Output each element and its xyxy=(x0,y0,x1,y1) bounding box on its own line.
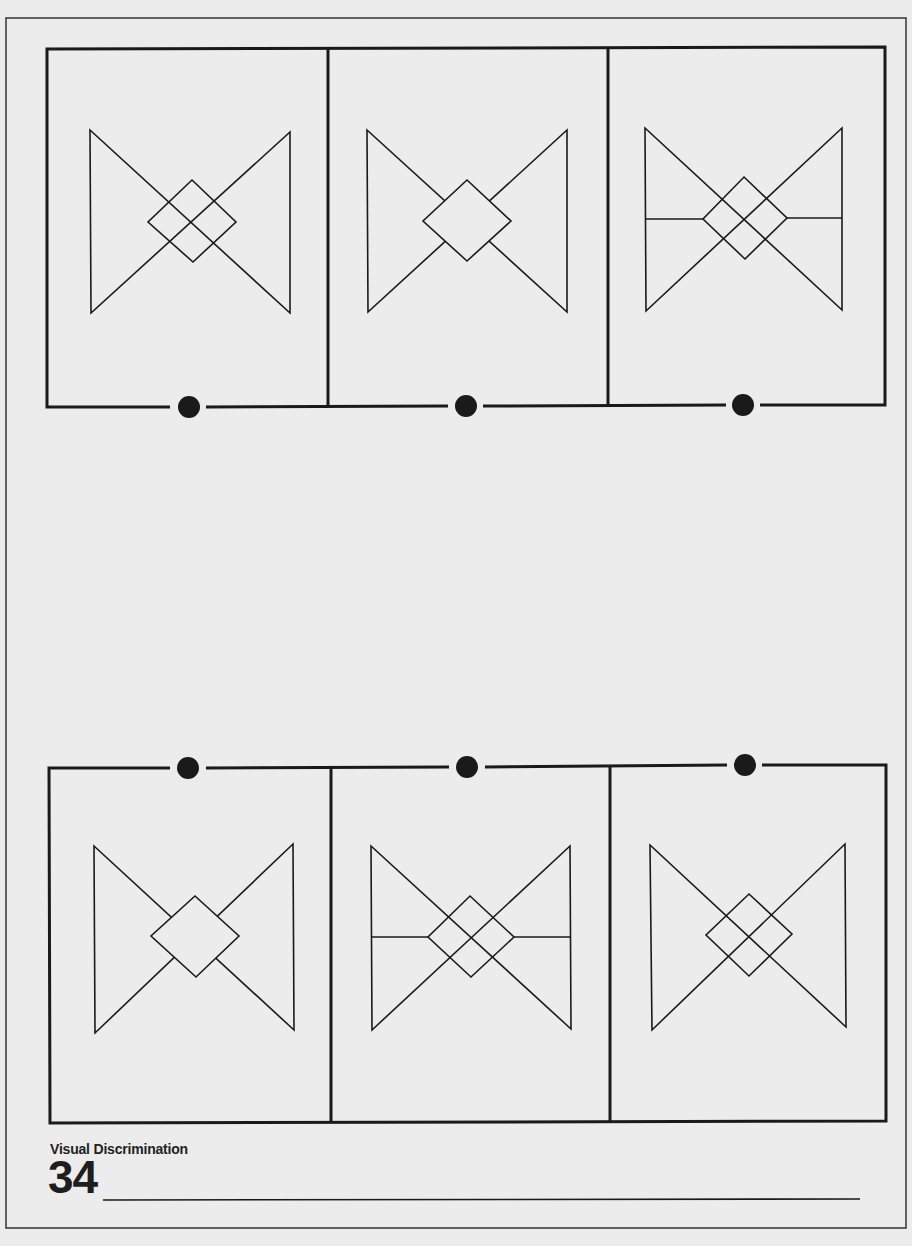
figure-top-3[interactable] xyxy=(645,128,842,311)
diamond-shape xyxy=(706,894,792,976)
answer-line[interactable] xyxy=(103,1199,860,1200)
bowtie-shape xyxy=(90,130,290,313)
page-number: 34 xyxy=(48,1154,97,1200)
connector-dot-bottom-3[interactable] xyxy=(734,754,756,776)
bowtie-shape xyxy=(371,846,571,1030)
bottom-row-seg-1 xyxy=(206,767,449,768)
connector-dot-bottom-2[interactable] xyxy=(456,756,478,778)
figure-bottom-1[interactable] xyxy=(94,844,294,1033)
bottom-row-seg-2 xyxy=(485,765,727,767)
bowtie-shape xyxy=(650,844,846,1030)
connector-dot-top-2[interactable] xyxy=(455,395,477,417)
connector-dot-bottom-1[interactable] xyxy=(177,757,199,779)
figure-bottom-3[interactable] xyxy=(650,844,846,1030)
top-row-seg-2 xyxy=(483,405,726,406)
connector-dot-top-3[interactable] xyxy=(732,394,754,416)
figure-top-1[interactable] xyxy=(90,130,290,313)
top-row-seg-1 xyxy=(206,406,448,407)
connector-dot-top-1[interactable] xyxy=(178,396,200,418)
figure-bottom-2[interactable] xyxy=(371,846,571,1030)
figure-top-2[interactable] xyxy=(367,130,567,312)
worksheet-canvas xyxy=(0,0,912,1246)
